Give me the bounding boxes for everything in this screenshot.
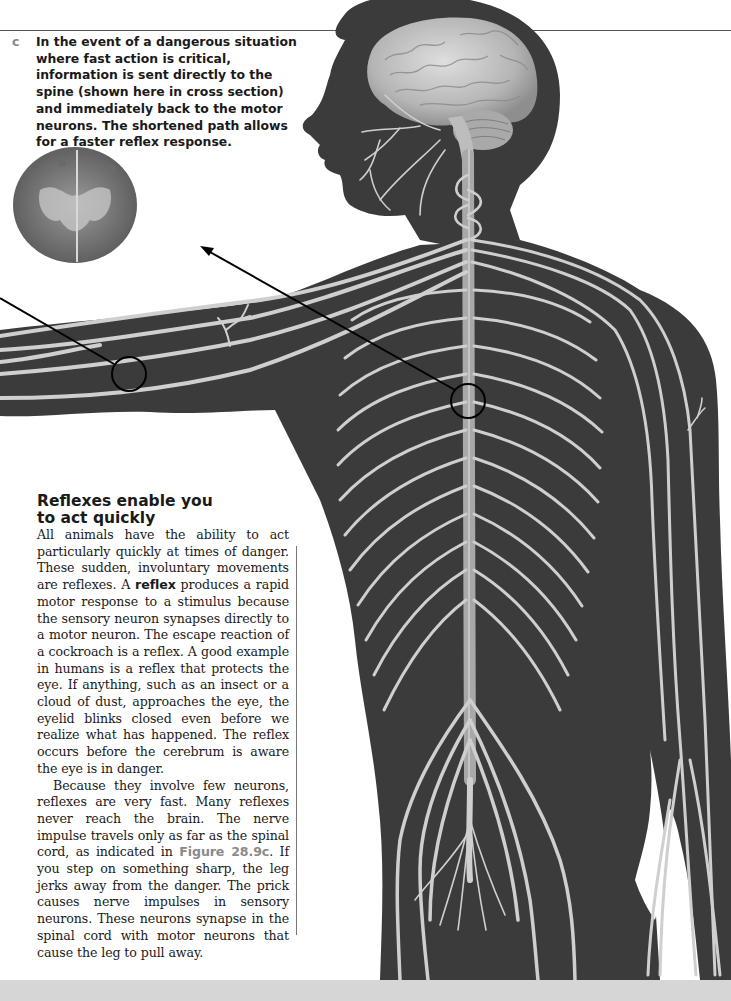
spinal-cross-section: [13, 147, 137, 263]
heading-line-2: to act quickly: [37, 509, 155, 527]
section-heading: Reflexes enable you to act quickly: [37, 493, 289, 527]
paragraph-1: All animals have the ability to act part…: [37, 527, 289, 778]
column-rule: [296, 546, 297, 935]
paragraph-2: Because they involve few neurons, reflex…: [37, 778, 289, 962]
figure-reference-link[interactable]: Figure 28.9c: [179, 844, 269, 859]
p2-text-after: . If you step on something sharp, the le…: [37, 844, 289, 959]
page-footer-band: [0, 980, 731, 1001]
p1-text-after: produces a rapid motor response to a sti…: [37, 577, 289, 776]
figure-caption: c In the event of a dangerous situation …: [12, 34, 312, 151]
article-section: Reflexes enable you to act quickly All a…: [37, 493, 289, 961]
caption-text: In the event of a dangerous situation wh…: [12, 34, 312, 151]
key-term-reflex: reflex: [135, 577, 176, 592]
panel-letter: c: [12, 34, 19, 51]
heading-line-1: Reflexes enable you: [37, 492, 213, 510]
